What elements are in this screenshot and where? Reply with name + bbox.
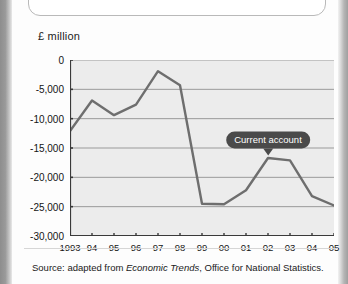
page-right-edge: [338, 0, 348, 284]
source-publication: Economic Trends: [126, 262, 199, 273]
y-tick-label: 0: [58, 55, 64, 66]
y-axis-title: £ million: [38, 30, 80, 42]
source-prefix: Source: adapted from: [32, 262, 126, 273]
y-tick-label: -30,000: [30, 231, 64, 242]
plot-area: 0-5,000-10,000-15,000-20,000-25,000-30,0…: [70, 60, 334, 236]
y-tick-label: -10,000: [30, 113, 64, 124]
y-tick-label: -15,000: [30, 143, 64, 154]
y-tick-label: -20,000: [30, 172, 64, 183]
page-sheet: £ million 0-5,000-10,000-15,000-20,000-2…: [12, 0, 338, 284]
chart-figure: £ million 0-5,000-10,000-15,000-20,000-2…: [18, 16, 334, 252]
y-tick-label: -25,000: [30, 201, 64, 212]
y-tick-label: -5,000: [36, 84, 64, 95]
current-account-callout: Current account: [226, 132, 310, 149]
source-note: Source: adapted from Economic Trends, Of…: [32, 262, 324, 273]
source-suffix: , Office for National Statistics.: [199, 262, 323, 273]
footer-divider: [24, 248, 338, 249]
rounded-card-outline: [28, 0, 326, 16]
page-left-edge: [0, 0, 12, 284]
